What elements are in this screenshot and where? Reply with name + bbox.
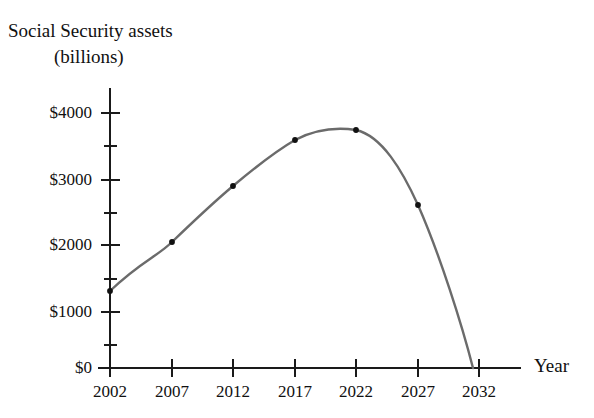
chart-plot-area [0, 0, 594, 418]
chart-figure: Social Security assets (billions) [0, 0, 594, 418]
x-tick-label-2032: 2032 [446, 382, 512, 402]
y-tick-label-3000: $3000 [12, 170, 92, 190]
data-point-2007 [169, 239, 175, 245]
y-tick-label-4000: $4000 [12, 103, 92, 123]
x-axis-title: Year [534, 355, 569, 377]
data-point-2022 [353, 127, 359, 133]
data-point-2027 [415, 202, 421, 208]
x-tick-label-2022: 2022 [323, 382, 389, 402]
data-point-markers [107, 127, 421, 294]
x-tick-label-2017: 2017 [262, 382, 328, 402]
y-tick-label-0: $0 [12, 358, 92, 378]
data-curve [110, 129, 473, 368]
data-point-2017 [292, 137, 298, 143]
x-tick-label-2007: 2007 [139, 382, 205, 402]
y-tick-label-1000: $1000 [12, 302, 92, 322]
data-point-2012 [230, 183, 236, 189]
x-tick-label-2012: 2012 [200, 382, 266, 402]
data-point-2002 [107, 288, 113, 294]
x-tick-label-2027: 2027 [385, 382, 451, 402]
x-tick-label-2002: 2002 [77, 382, 143, 402]
y-tick-label-2000: $2000 [12, 235, 92, 255]
